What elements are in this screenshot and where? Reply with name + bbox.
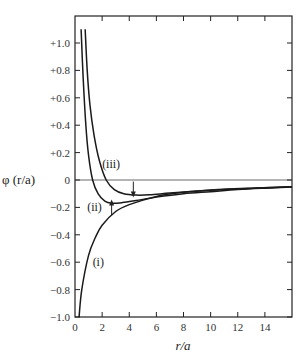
x-tick-label: 4 bbox=[127, 321, 133, 333]
y-tick-label: −0.2 bbox=[50, 201, 70, 213]
curve-i bbox=[79, 187, 292, 317]
curve-label: (i) bbox=[93, 255, 104, 269]
y-tick-label: +0.2 bbox=[50, 147, 70, 159]
data-curves bbox=[79, 29, 292, 317]
x-tick-label: 8 bbox=[181, 321, 187, 333]
y-tick-label: +0.4 bbox=[50, 119, 70, 131]
x-tick-label: 14 bbox=[259, 321, 271, 333]
y-tick-label: −1.0 bbox=[50, 311, 70, 323]
y-tick-label: −0.4 bbox=[50, 229, 70, 241]
y-tick-label: +1.0 bbox=[50, 37, 70, 49]
x-axis-title: r/a bbox=[175, 338, 191, 353]
annotations: (i)(ii)(iii) bbox=[87, 157, 136, 270]
x-tick-label: 6 bbox=[154, 321, 160, 333]
curve-ii bbox=[81, 29, 292, 203]
y-tick-label: −0.8 bbox=[50, 284, 70, 296]
y-tick-label: +0.6 bbox=[50, 92, 70, 104]
chart-plot: 02468101214+1.0+0.8+0.6+0.4+0.20−0.2−0.4… bbox=[0, 0, 307, 359]
x-tick-label: 2 bbox=[99, 321, 105, 333]
x-tick-label: 10 bbox=[205, 321, 217, 333]
x-tick-label: 12 bbox=[232, 321, 243, 333]
x-tick-label: 0 bbox=[72, 321, 78, 333]
curve-label: (iii) bbox=[102, 157, 120, 171]
y-tick-label: +0.8 bbox=[50, 64, 70, 76]
curve-label: (ii) bbox=[87, 200, 102, 214]
y-axis-title: φ (r/a) bbox=[2, 172, 35, 187]
y-tick-label: −0.6 bbox=[50, 256, 70, 268]
y-tick-label: 0 bbox=[65, 174, 71, 186]
